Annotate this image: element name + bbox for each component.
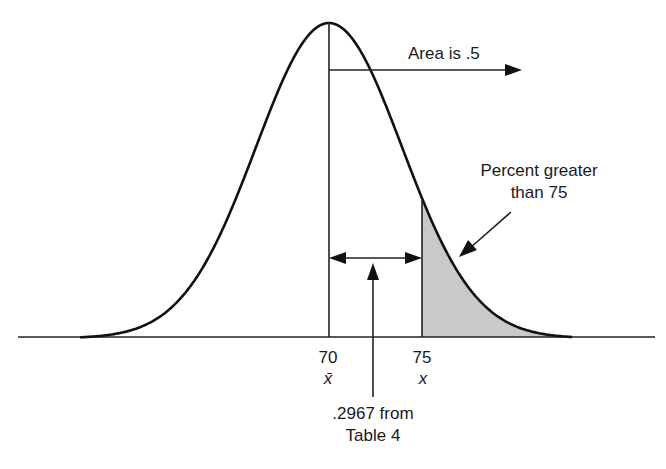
normal-curve-diagram: Area is .5 Percent greater than 75 70 x̄… <box>0 0 666 469</box>
x-value-label: 75 <box>413 348 432 367</box>
table-value-label-line2: Table 4 <box>346 426 401 445</box>
difference-double-arrow <box>329 252 422 264</box>
mean-value-label: 70 <box>319 348 338 367</box>
percent-greater-label-line1: Percent greater <box>480 161 598 180</box>
x-symbol-label: x <box>418 369 428 388</box>
percent-greater-label-line2: than 75 <box>511 183 568 202</box>
area-half-arrow <box>329 64 522 76</box>
area-half-label: Area is .5 <box>408 44 480 63</box>
table-value-pointer-arrow <box>367 263 379 397</box>
mean-symbol-label: x̄ <box>323 369 333 388</box>
table-value-label-line1: .2967 from <box>332 404 413 423</box>
percent-greater-pointer-arrow <box>459 212 511 257</box>
